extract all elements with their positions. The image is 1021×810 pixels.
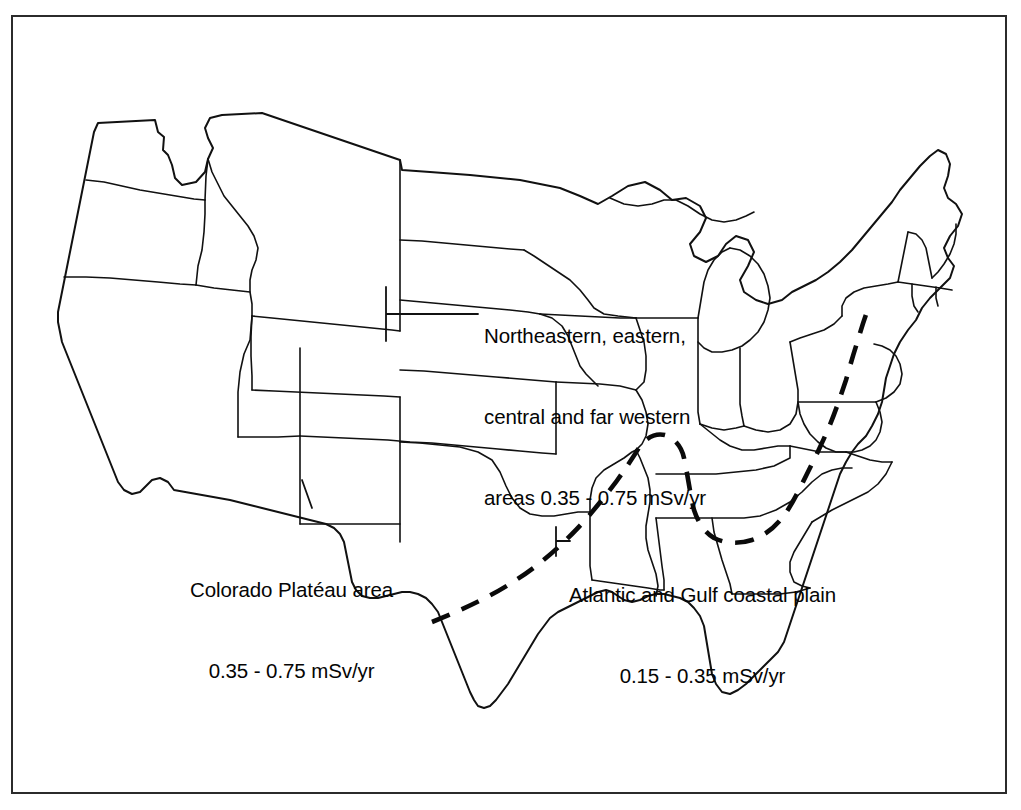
atlantic-line-1: Atlantic and Gulf coastal plain — [569, 581, 836, 608]
colorado-plateau-annotation: Colorado Platéau area 0.35 - 0.75 mSv/yr — [190, 522, 393, 738]
northeastern-line-1: Northeastern, eastern, — [484, 322, 706, 349]
colorado-line-1: Colorado Platéau area — [190, 576, 393, 603]
northeastern-annotation: Northeastern, eastern, central and far w… — [484, 268, 706, 565]
northeastern-line-3: areas 0.35 - 0.75 mSv/yr — [484, 484, 706, 511]
atlantic-gulf-annotation: Atlantic and Gulf coastal plain 0.15 - 0… — [569, 527, 836, 743]
northeastern-line-2: central and far western — [484, 403, 706, 430]
atlantic-line-2: 0.15 - 0.35 mSv/yr — [569, 662, 836, 689]
state-line-va-nc — [846, 452, 892, 462]
figure-container: Northeastern, eastern, central and far w… — [0, 0, 1021, 810]
colorado-line-2: 0.35 - 0.75 mSv/yr — [190, 657, 393, 684]
